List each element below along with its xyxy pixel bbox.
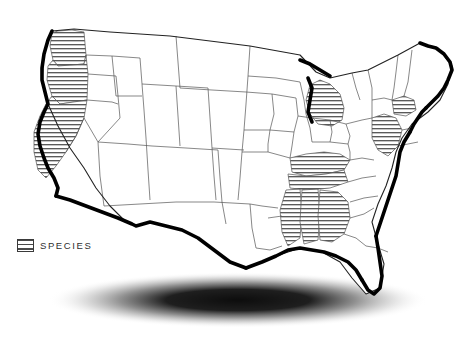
region-alabama [300, 189, 320, 244]
map-figure: SPECIES [0, 0, 472, 337]
landmass-base [42, 29, 452, 294]
us-species-map [0, 0, 472, 337]
region-washington [50, 30, 86, 66]
legend-swatch-species-icon [17, 239, 34, 252]
map-legend: SPECIES [17, 239, 92, 252]
legend-label-species: SPECIES [40, 241, 92, 251]
